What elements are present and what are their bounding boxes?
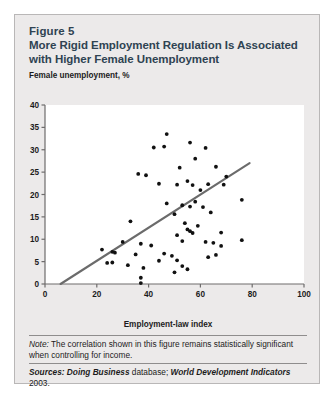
data-point [222, 183, 226, 187]
data-point [157, 259, 161, 263]
data-point [178, 166, 182, 170]
data-point [206, 255, 210, 259]
data-point [188, 205, 192, 209]
data-point [100, 248, 104, 252]
data-point [191, 183, 195, 187]
data-point [142, 266, 146, 270]
data-point [180, 264, 184, 268]
x-tick-label: 0 [43, 290, 48, 299]
data-point [219, 244, 223, 248]
data-point [188, 141, 192, 145]
data-point [134, 253, 138, 257]
data-point [175, 233, 179, 237]
data-point [191, 231, 195, 235]
data-point [139, 242, 143, 246]
sources-wdi-year: 2003. [29, 378, 50, 388]
data-point [165, 202, 169, 206]
plot-background [45, 105, 304, 284]
note-divider [29, 335, 307, 336]
y-tick-label: 5 [34, 258, 39, 267]
data-point [162, 145, 166, 149]
x-tick-label: 100 [297, 290, 311, 299]
data-point [139, 281, 143, 285]
data-point [139, 276, 143, 280]
data-point [204, 146, 208, 150]
data-point [113, 251, 117, 255]
y-tick-label: 40 [30, 101, 40, 110]
x-tick-label: 80 [248, 290, 258, 299]
data-point [105, 261, 109, 265]
data-point [144, 173, 148, 177]
data-point [193, 200, 197, 204]
data-point [110, 261, 114, 265]
data-point [240, 198, 244, 202]
figure-card: Figure 5 More Rigid Employment Regulatio… [14, 14, 320, 384]
data-point [136, 172, 140, 176]
x-tick-label: 60 [196, 290, 206, 299]
x-tick-label: 40 [144, 290, 154, 299]
sources-db-suffix: database; [130, 367, 171, 377]
y-tick-label: 35 [30, 123, 40, 132]
data-point [201, 205, 205, 209]
data-point [240, 238, 244, 242]
y-tick-label: 25 [30, 168, 40, 177]
data-point [209, 211, 213, 215]
data-point [173, 270, 177, 274]
data-point [180, 239, 184, 243]
data-point [170, 254, 174, 258]
data-point [129, 219, 133, 223]
data-point [186, 267, 190, 271]
y-tick-label: 30 [30, 146, 40, 155]
data-point [211, 241, 215, 245]
data-point [175, 183, 179, 187]
y-tick-label: 20 [30, 191, 40, 200]
data-point [224, 175, 228, 179]
y-tick-label: 10 [30, 235, 40, 244]
note-label: Note: [29, 339, 49, 349]
data-point [175, 258, 179, 262]
data-point [149, 244, 153, 248]
data-point [183, 221, 187, 225]
data-point [165, 132, 169, 136]
scatter-chart: 0510152025303540020406080100 [15, 15, 321, 315]
data-point [173, 212, 177, 216]
sources-db-name: Doing Business [65, 367, 130, 377]
y-tick-label: 0 [34, 280, 39, 289]
sources-divider [29, 363, 307, 364]
data-point [199, 188, 203, 192]
data-point [204, 240, 208, 244]
y-tick-label: 15 [30, 213, 40, 222]
data-point [186, 179, 190, 183]
data-point [180, 203, 184, 207]
data-point [219, 231, 223, 235]
data-point [193, 157, 197, 161]
data-point [121, 240, 125, 244]
sources-wdi-name: World Development Indicators [171, 367, 291, 377]
note-text: The correlation shown in this figure rem… [29, 339, 293, 360]
data-point [157, 182, 161, 186]
chart-plot-area: 0510152025303540020406080100 [15, 15, 321, 385]
data-point [214, 253, 218, 257]
data-point [162, 252, 166, 256]
data-point [214, 165, 218, 169]
data-point [152, 146, 156, 150]
data-point [196, 224, 200, 228]
figure-note: Note: The correlation shown in this figu… [29, 339, 309, 360]
x-tick-label: 20 [92, 290, 102, 299]
sources-label: Sources: [29, 367, 65, 377]
x-axis-label: Employment-law index [15, 320, 321, 329]
figure-sources: Sources: Doing Business database; World … [29, 367, 309, 388]
data-point [206, 182, 210, 186]
data-point [126, 263, 130, 267]
